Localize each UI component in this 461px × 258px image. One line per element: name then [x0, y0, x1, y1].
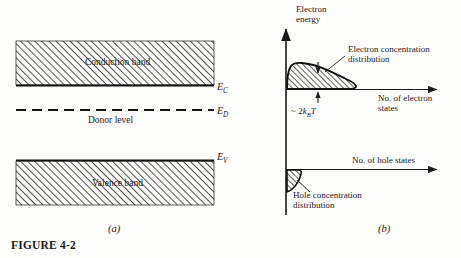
hole-concentration-distribution: [287, 170, 301, 192]
panel-b-letter: (b): [378, 223, 390, 235]
level-symbol-ec: EC: [217, 81, 228, 95]
level-symbol-ed: ED: [217, 105, 228, 119]
conduction-band-label: Conduction band: [85, 57, 150, 68]
energy-axis-label-line1: Electron: [296, 4, 327, 14]
electron-states-axis-label: No. of electron states: [378, 93, 432, 113]
kt-width-label: ~ 2kBT: [291, 106, 316, 118]
hole-distribution-annotation-line1: Hole concentration: [293, 190, 362, 200]
hole-distribution-annotation-line2: distribution: [293, 200, 362, 210]
electron-states-axis-label-line1: No. of electron: [378, 93, 432, 103]
panel-a-letter: (a): [108, 223, 120, 235]
level-symbol-ev: EV: [217, 151, 228, 165]
energy-axis-label-line2: energy: [296, 14, 327, 24]
electron-distribution-annotation-line1: Electron concentration: [348, 44, 430, 54]
electron-label-leader: [325, 56, 345, 72]
electron-states-axis-label-line2: states: [378, 103, 432, 113]
figure-caption: FIGURE 4-2: [11, 239, 76, 252]
electron-distribution-annotation-line2: distribution: [348, 54, 430, 64]
figure-4-2: Conduction band Valence band Donor level…: [0, 0, 461, 258]
hole-states-axis-label: No. of hole states: [352, 155, 415, 165]
energy-axis-label: Electron energy: [296, 4, 327, 24]
electron-distribution-annotation: Electron concentration distribution: [348, 44, 430, 64]
figure-canvas: [0, 0, 461, 258]
hole-distribution-annotation: Hole concentration distribution: [293, 190, 362, 210]
valence-band-label: Valence band: [92, 178, 143, 189]
electron-concentration-distribution: [287, 63, 356, 89]
donor-level-label: Donor level: [88, 115, 133, 126]
